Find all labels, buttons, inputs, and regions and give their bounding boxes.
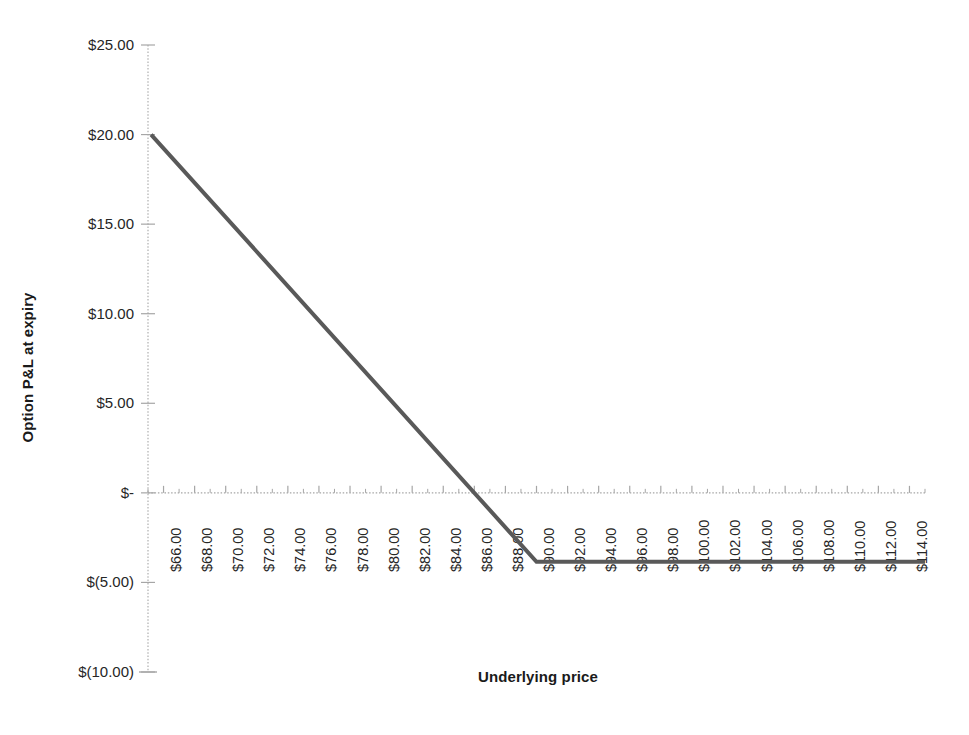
chart-container: Option P&L at expiry $25.00$20.00$15.00$… — [0, 0, 969, 735]
plot-area — [0, 0, 969, 735]
data-series-group — [151, 135, 925, 562]
x-axis-title: Underlying price — [148, 668, 928, 685]
x-axis — [148, 486, 925, 493]
series-line-option-pnl — [151, 135, 925, 562]
